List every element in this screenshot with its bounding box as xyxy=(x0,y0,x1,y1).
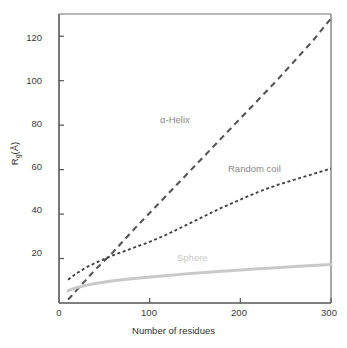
ytick-label-40: 40 xyxy=(12,204,42,215)
xtick-label-200: 200 xyxy=(224,307,254,318)
y-axis-title-unit: (Å) xyxy=(9,142,20,155)
ytick-label-100: 100 xyxy=(12,75,42,86)
y-axis-title-base: R xyxy=(9,158,20,165)
series-label-random-coil: Random coil xyxy=(228,163,281,174)
x-axis-title: Number of residues xyxy=(0,325,347,336)
chart-canvas xyxy=(0,0,347,348)
xtick-label-300: 300 xyxy=(314,307,344,318)
series-line-sphere xyxy=(68,265,331,291)
chart-figure: 120 100 80 60 40 20 0 100 200 300 Number… xyxy=(0,0,347,348)
series-label-sphere: Sphere xyxy=(177,252,208,263)
series-label-alpha-helix: α-Helix xyxy=(160,114,190,125)
xtick-label-100: 100 xyxy=(134,307,164,318)
ytick-label-120: 120 xyxy=(12,32,42,43)
y-axis-title: Rg(Å) xyxy=(9,124,20,184)
ytick-label-20: 20 xyxy=(12,247,42,258)
xtick-label-0: 0 xyxy=(44,307,74,318)
y-axis-title-subscript: g xyxy=(14,154,21,158)
